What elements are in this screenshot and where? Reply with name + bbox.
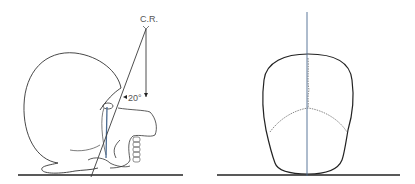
mandible-outline <box>88 140 130 167</box>
sagittal-suture <box>308 58 309 108</box>
arrowhead-oblique <box>123 95 127 99</box>
arrowhead-vertical <box>144 93 148 97</box>
ear-canal <box>103 103 113 109</box>
diagram-canvas: C.R. 20° <box>0 0 415 184</box>
angle-label: 20° <box>128 93 142 103</box>
teeth <box>133 137 140 162</box>
frontal-view <box>217 12 400 176</box>
central-ray-label: C.R. <box>140 14 158 24</box>
central-ray-oblique <box>91 29 146 177</box>
inner-detail <box>70 145 100 151</box>
lambdoid-suture <box>270 108 347 132</box>
lateral-view: C.R. 20° <box>18 14 183 177</box>
blue-reference-line <box>106 107 107 158</box>
cr-tick <box>143 26 149 29</box>
occipital-detail <box>102 108 106 155</box>
